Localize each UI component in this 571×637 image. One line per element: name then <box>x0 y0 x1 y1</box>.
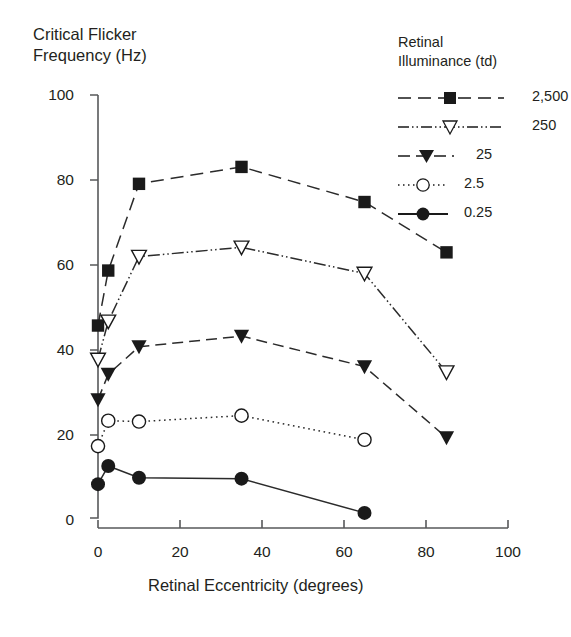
data-point <box>101 459 115 473</box>
series-2-5 <box>91 409 371 453</box>
data-point <box>439 366 454 380</box>
data-point <box>132 415 145 428</box>
data-point <box>235 161 247 173</box>
data-point <box>358 433 371 446</box>
series-path <box>98 336 447 438</box>
data-point <box>357 360 372 374</box>
data-point <box>102 264 114 276</box>
data-point <box>91 353 106 367</box>
data-point <box>101 368 116 382</box>
series-path <box>98 167 447 326</box>
data-point <box>439 431 454 445</box>
plot-area <box>0 0 571 637</box>
data-point <box>91 477 105 491</box>
series-250 <box>91 241 454 379</box>
data-point <box>133 178 145 190</box>
data-point <box>235 409 248 422</box>
data-point <box>440 246 452 258</box>
y-axis <box>90 95 98 518</box>
series-layer <box>90 161 454 520</box>
data-point <box>358 196 370 208</box>
data-point <box>358 506 372 520</box>
series-2-500 <box>92 161 453 332</box>
series-path <box>98 247 447 372</box>
data-point <box>91 439 104 452</box>
data-point <box>132 250 147 264</box>
x-axis <box>98 520 508 528</box>
data-point <box>102 414 115 427</box>
data-point <box>92 319 104 331</box>
data-point <box>132 471 146 485</box>
data-point <box>235 472 249 486</box>
series-25 <box>90 330 454 446</box>
data-point <box>90 393 105 407</box>
series-0-25 <box>91 459 372 520</box>
figure-canvas: Critical Flicker Frequency (Hz) Retinal … <box>0 0 571 637</box>
